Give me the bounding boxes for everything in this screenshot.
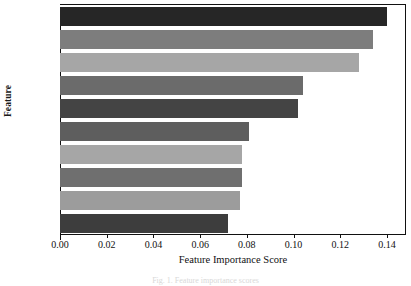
bar-row	[0, 166, 411, 189]
bar-v_poc	[60, 214, 228, 233]
bar-v_avg	[60, 122, 249, 141]
bar-v_min	[60, 99, 298, 118]
bar-row	[0, 74, 411, 97]
x-tick-mark	[60, 235, 61, 238]
x-tick-mark	[200, 235, 201, 238]
bar-p_poc	[60, 191, 240, 210]
bar-p_min	[60, 7, 387, 26]
bar-row	[0, 5, 411, 28]
x-tick-mark	[340, 235, 341, 238]
x-tick-label-0.12: 0.12	[315, 239, 365, 250]
bar-v_max	[60, 76, 303, 95]
bar-p_avg	[60, 53, 359, 72]
x-tick-mark	[107, 235, 108, 238]
x-tick-label-0.04: 0.04	[128, 239, 178, 250]
x-tick-label-0.08: 0.08	[222, 239, 272, 250]
x-tick-mark	[294, 235, 295, 238]
bar-row	[0, 28, 411, 51]
x-tick-label-0.02: 0.02	[82, 239, 132, 250]
feature-importance-figure: Feature P_minP_maxP_avgV_maxV_minV_avgP_…	[0, 0, 411, 286]
bar-v_std	[60, 168, 242, 187]
figure-caption: Fig. 1. Feature importance scores	[0, 276, 411, 285]
x-axis-title: Feature Importance Score	[60, 254, 406, 265]
x-tick-mark	[387, 235, 388, 238]
x-tick-label-0.10: 0.10	[269, 239, 319, 250]
x-tick-label-0.06: 0.06	[175, 239, 225, 250]
x-tick-label-0.00: 0.00	[35, 239, 85, 250]
bar-row	[0, 97, 411, 120]
x-tick-mark	[247, 235, 248, 238]
x-tick-label-0.14: 0.14	[362, 239, 411, 250]
bar-row	[0, 212, 411, 235]
bar-p_max	[60, 30, 373, 49]
bar-row	[0, 51, 411, 74]
bar-row	[0, 189, 411, 212]
bar-p_std	[60, 145, 242, 164]
bar-row	[0, 143, 411, 166]
x-tick-mark	[153, 235, 154, 238]
bar-row	[0, 120, 411, 143]
